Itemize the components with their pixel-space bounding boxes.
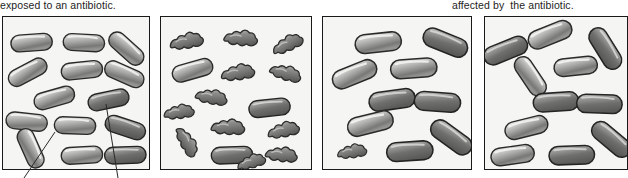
- antibiotic-resistance-figure: exposed to an antibiotic. affected by th…: [0, 0, 628, 178]
- panel-3-cells: [323, 17, 471, 169]
- panel-4-resistant-population: [484, 16, 628, 170]
- panel-1-population-before-antibiotic: [2, 16, 150, 170]
- caption-right: affected by the antibiotic.: [452, 0, 574, 11]
- panel-2-cells: [161, 17, 311, 169]
- panel-4-cells: [485, 17, 627, 169]
- caption-left: exposed to an antibiotic.: [0, 0, 116, 11]
- panel-3-resistant-cells-regrow: [322, 16, 472, 170]
- panel-2-most-cells-killed: [160, 16, 312, 170]
- panel-1-cells: [3, 17, 149, 169]
